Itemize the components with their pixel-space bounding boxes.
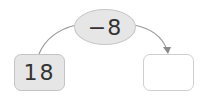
- operation-label: −8: [88, 15, 122, 40]
- answer-box[interactable]: [143, 54, 194, 91]
- start-value-box: 18: [14, 54, 65, 91]
- arrowhead-icon: [163, 47, 171, 54]
- start-value: 18: [24, 60, 56, 85]
- operation-oval: −8: [74, 9, 136, 45]
